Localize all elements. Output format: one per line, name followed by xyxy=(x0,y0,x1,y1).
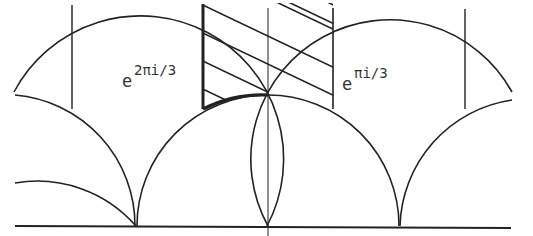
svg-text:πi/3: πi/3 xyxy=(354,65,388,81)
geodesic-arcs xyxy=(14,16,512,226)
label-e-pi-i-over-3: e πi/3 xyxy=(342,65,388,94)
fundamental-domain-diagram: e 2πi/3 e πi/3 xyxy=(0,0,533,236)
label-e-2pi-i-over-3: e 2πi/3 xyxy=(122,62,176,91)
shaded-region-hatching xyxy=(150,0,470,192)
svg-text:2πi/3: 2πi/3 xyxy=(134,62,176,78)
real-axis xyxy=(15,226,511,228)
svg-text:e: e xyxy=(342,74,352,94)
svg-text:e: e xyxy=(122,71,132,91)
